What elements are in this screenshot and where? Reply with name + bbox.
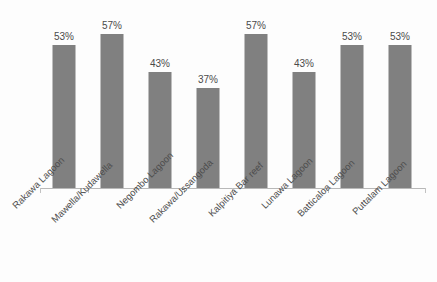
bar-value-label: 57%: [102, 20, 122, 31]
bar-value-label: 53%: [342, 31, 362, 42]
bar-value-label: 53%: [390, 31, 410, 42]
bar-value-label: 53%: [54, 31, 74, 42]
bar-value-label: 57%: [246, 20, 266, 31]
bar-value-label: 43%: [150, 58, 170, 69]
bar-value-label: 43%: [294, 58, 314, 69]
bar-chart: 53% 57% 43% 37% 57% 43% 53: [0, 0, 437, 282]
x-axis-category-labels: Rakawa Lagoon Mawella/Kudawella Negombo …: [0, 189, 437, 282]
bar-group-1: 57%: [88, 0, 136, 188]
plot-area: 53% 57% 43% 37% 57% 43% 53: [0, 0, 437, 188]
bar-value-label: 37%: [198, 74, 218, 85]
